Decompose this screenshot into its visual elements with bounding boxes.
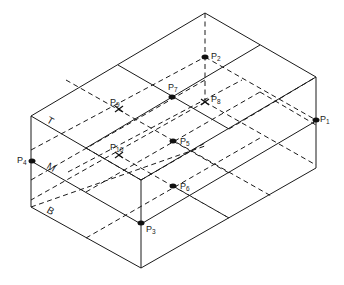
point-p5-dot <box>170 139 177 144</box>
point-p6-dot <box>170 184 177 189</box>
layer-label-middle: M <box>45 160 58 174</box>
point-label-p6: P6 <box>180 181 190 192</box>
interior-dashed-lines <box>31 13 316 238</box>
point-p1-dot <box>313 118 320 123</box>
point-p4-dot <box>29 159 36 164</box>
point-p7-dot <box>169 95 176 100</box>
isometric-block-diagram: T M B P1 P2 P3 P4 P5 P6 P7 P8 P9 P10 <box>0 0 344 285</box>
point-p2-dot <box>202 55 209 60</box>
point-label-p2: P2 <box>211 51 221 62</box>
point-label-p7: P7 <box>168 82 178 93</box>
layer-labels: T M B <box>45 114 58 217</box>
point-label-p4: P4 <box>17 155 27 166</box>
point-label-p9: P9 <box>110 97 120 108</box>
point-label-p8: P8 <box>211 94 221 105</box>
point-label-p1: P1 <box>320 114 330 125</box>
point-p3-dot <box>138 221 145 226</box>
point-label-p5: P5 <box>180 136 190 147</box>
point-label-p3: P3 <box>146 224 156 235</box>
middle-layer-boundary <box>31 121 316 224</box>
